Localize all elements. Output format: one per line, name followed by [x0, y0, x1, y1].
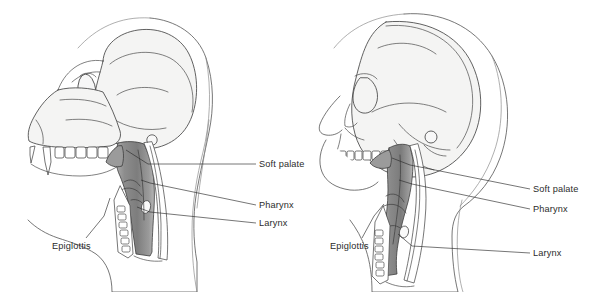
human-molar	[363, 151, 371, 160]
anatomy-illustration: Soft palate Pharynx Larynx Epiglottis	[0, 0, 598, 292]
human-premolar	[355, 151, 362, 160]
auditory-meatus	[425, 131, 437, 143]
chimpanzee-panel: Soft palate Pharynx Larynx Epiglottis	[28, 18, 305, 292]
human-label-soft-palate: Soft palate	[533, 184, 579, 194]
human-label-pharynx: Pharynx	[533, 204, 568, 214]
anatomy-figure: Soft palate Pharynx Larynx Epiglottis	[0, 0, 598, 292]
chimp-incisor	[30, 146, 35, 163]
chimp-molar	[76, 147, 86, 158]
human-label-larynx: Larynx	[533, 248, 562, 258]
chimp-label-soft-palate: Soft palate	[259, 159, 305, 169]
chimp-premolar	[55, 147, 64, 158]
human-label-epiglottis: Epiglottis	[330, 241, 369, 251]
human-nasal-aperture	[319, 96, 357, 135]
chimp-molar	[65, 147, 75, 158]
human-panel: Soft palate Pharynx Larynx Epiglottis	[319, 14, 578, 292]
chimp-label-epiglottis: Epiglottis	[52, 241, 91, 251]
chimp-label-pharynx: Pharynx	[259, 200, 294, 210]
chimp-molar	[98, 147, 108, 158]
chimp-molar	[87, 147, 97, 158]
chimp-label-larynx: Larynx	[259, 218, 288, 228]
